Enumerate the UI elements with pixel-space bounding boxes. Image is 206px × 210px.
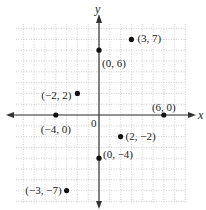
point-label: (−3, −7) — [25, 184, 62, 197]
point-label: (0, 6) — [102, 57, 126, 70]
point-label: (0, −4) — [103, 148, 133, 161]
data-point — [53, 112, 58, 117]
point-label: (2, −2) — [126, 130, 156, 143]
data-point — [118, 134, 123, 139]
data-point — [129, 37, 134, 42]
data-point — [64, 188, 69, 193]
point-label: (−2, 2) — [41, 89, 71, 102]
x-axis-left-arrow-icon — [6, 112, 14, 118]
point-label: (−4, 0) — [41, 123, 71, 136]
y-axis-label: y — [94, 2, 101, 16]
origin-label: 0 — [91, 117, 97, 129]
y-axis-down-arrow-icon — [96, 201, 102, 209]
coordinate-plane: x y 0 (3, 7)(0, 6)(−2, 2)(6, 0)(−4, 0)(2… — [0, 0, 206, 210]
data-point — [161, 112, 166, 117]
x-axis-right-arrow-icon — [188, 112, 196, 118]
point-label: (6, 0) — [152, 101, 176, 114]
x-axis-label: x — [197, 108, 204, 122]
point-label: (3, 7) — [137, 32, 161, 45]
data-point — [96, 48, 101, 53]
data-point — [96, 156, 101, 161]
data-point — [75, 91, 80, 96]
